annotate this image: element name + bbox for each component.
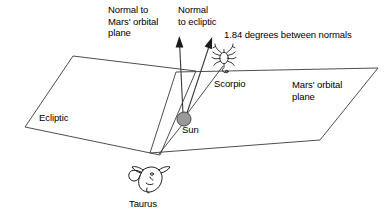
mars-orbital-plane-shape xyxy=(150,68,378,153)
scorpio-scorpion-icon xyxy=(212,44,236,73)
sight-line-scorpio xyxy=(187,66,223,114)
label-ecliptic-plane: Ecliptic xyxy=(39,112,68,124)
label-normal-to-mars-plane: Normal to Mars' orbital plane xyxy=(108,4,158,39)
label-sun: Sun xyxy=(182,124,199,136)
taurus-bull-head-icon xyxy=(129,167,170,193)
normal-to-mars-plane-arrow xyxy=(176,36,184,113)
label-normal-to-ecliptic: Normal to ecliptic xyxy=(178,4,217,27)
label-taurus: Taurus xyxy=(129,198,157,210)
label-mars-orbital-plane: Mars' orbital plane xyxy=(292,79,342,102)
label-scorpio: Scorpio xyxy=(214,78,246,90)
sight-line-taurus xyxy=(159,125,182,154)
diagram-canvas: Normal to Mars' orbital plane Normal to … xyxy=(0,0,391,216)
normal-to-ecliptic-arrow xyxy=(187,37,212,113)
label-angle-between-normals: 1.84 degrees between normals xyxy=(224,29,352,41)
